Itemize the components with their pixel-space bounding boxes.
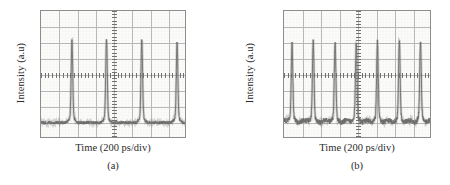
axis-tick	[45, 73, 46, 78]
axis-tick	[356, 11, 361, 12]
axis-tick	[356, 107, 361, 108]
axis-tick	[388, 73, 389, 78]
axis-tick	[59, 73, 60, 78]
oscilloscope-screen-a	[40, 10, 186, 138]
axis-tick	[112, 62, 117, 63]
axis-tick	[356, 123, 361, 124]
axis-tick	[112, 30, 117, 31]
axis-tick	[356, 43, 361, 44]
oscilloscope-screen-b	[283, 10, 431, 138]
axis-tick	[161, 73, 162, 78]
axis-tick	[356, 94, 361, 95]
axis-tick	[112, 24, 117, 25]
axis-tick	[154, 73, 155, 78]
axis-tick	[362, 73, 363, 78]
axis-tick	[103, 73, 104, 78]
axis-tick	[365, 73, 366, 78]
axis-tick	[414, 73, 415, 78]
axis-tick	[317, 73, 318, 78]
axis-tick	[340, 73, 341, 78]
axis-tick	[356, 49, 361, 50]
axis-tick	[421, 73, 422, 78]
axis-tick	[112, 110, 117, 111]
axis-tick	[373, 73, 374, 78]
axis-tick	[328, 73, 329, 78]
axis-tick	[356, 33, 361, 34]
axis-tick	[112, 136, 117, 137]
axis-tick	[112, 123, 117, 124]
axis-tick	[180, 73, 181, 78]
axis-tick	[406, 73, 407, 78]
axis-tick	[112, 11, 117, 12]
axis-tick	[284, 73, 285, 78]
axis-tick	[356, 113, 361, 114]
axis-tick	[176, 73, 177, 78]
axis-tick	[356, 120, 361, 121]
axis-tick	[112, 17, 117, 18]
axis-tick	[112, 78, 117, 79]
axis-tick	[356, 56, 361, 57]
axis-tick	[112, 27, 117, 28]
axis-tick	[356, 37, 361, 38]
axis-tick	[112, 126, 117, 127]
axis-tick	[92, 73, 93, 78]
axis-tick	[112, 37, 117, 38]
axis-tick	[356, 72, 361, 73]
axis-tick	[74, 73, 75, 78]
axis-tick	[67, 73, 68, 78]
axis-tick	[356, 129, 361, 130]
panel-a: Intensity (a.u) Time (200 ps/div) (a)	[0, 0, 225, 185]
axis-tick	[356, 136, 361, 137]
axis-tick	[63, 73, 64, 78]
axis-tick	[151, 73, 152, 78]
axis-tick	[288, 73, 289, 78]
axis-tick	[303, 73, 304, 78]
axis-tick	[70, 73, 71, 78]
axis-tick	[356, 59, 361, 60]
axis-tick	[112, 43, 117, 44]
axis-tick	[48, 73, 49, 78]
axis-tick	[112, 81, 117, 82]
axis-tick	[395, 73, 396, 78]
axis-tick	[112, 56, 117, 57]
axis-tick	[183, 73, 184, 78]
axis-tick	[356, 27, 361, 28]
axis-tick	[112, 33, 117, 34]
axis-tick	[112, 88, 117, 89]
axis-tick	[369, 73, 370, 78]
axis-tick	[81, 73, 82, 78]
axis-tick	[118, 73, 119, 78]
axis-tick	[88, 73, 89, 78]
axis-tick	[332, 73, 333, 78]
axis-tick	[356, 62, 361, 63]
axis-tick	[391, 73, 392, 78]
panel-caption-b: (b)	[283, 160, 431, 171]
axis-tick	[291, 73, 292, 78]
panel-caption-a: (a)	[40, 160, 186, 171]
axis-tick	[356, 88, 361, 89]
axis-tick	[356, 117, 361, 118]
axis-tick	[112, 97, 117, 98]
axis-tick	[356, 53, 361, 54]
axis-tick	[384, 73, 385, 78]
axis-tick	[356, 46, 361, 47]
axis-tick	[112, 46, 117, 47]
axis-tick	[112, 104, 117, 105]
axis-tick	[112, 75, 117, 76]
axis-tick	[399, 73, 400, 78]
axis-tick	[402, 73, 403, 78]
axis-tick	[356, 21, 361, 22]
axis-tick	[321, 73, 322, 78]
axis-tick	[99, 73, 100, 78]
axis-tick	[356, 24, 361, 25]
axis-tick	[112, 120, 117, 121]
axis-tick	[112, 49, 117, 50]
axis-tick	[356, 14, 361, 15]
axis-tick	[112, 14, 117, 15]
axis-tick	[125, 73, 126, 78]
axis-tick	[158, 73, 159, 78]
axis-tick	[428, 73, 429, 78]
axis-tick	[356, 75, 361, 76]
axis-tick	[380, 73, 381, 78]
axis-tick	[356, 101, 361, 102]
